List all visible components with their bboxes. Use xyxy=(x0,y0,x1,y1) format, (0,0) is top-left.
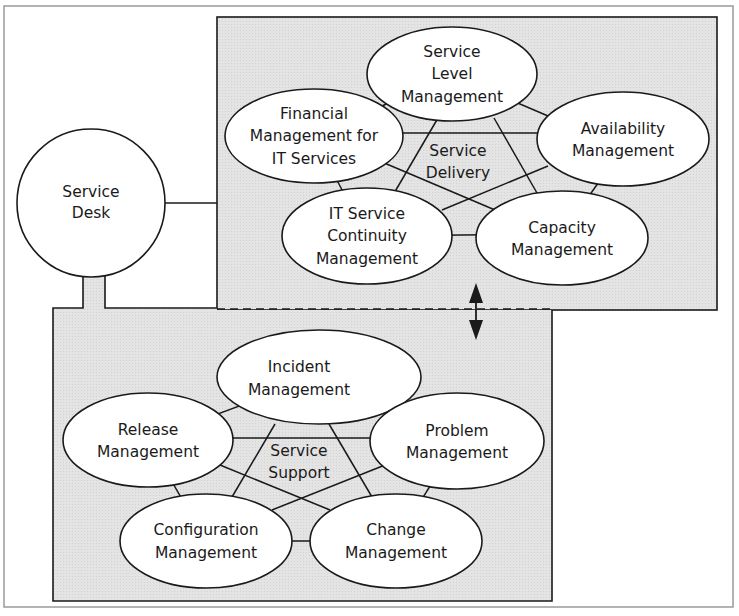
service-delivery-label-1: Service xyxy=(429,142,486,160)
node-change-management[interactable]: Change Management xyxy=(310,494,482,588)
node-label: IT Services xyxy=(272,150,356,168)
node-financial-management[interactable]: Financial Management for IT Services xyxy=(225,89,403,183)
node-label: Configuration xyxy=(153,521,258,539)
node-label: IT Service xyxy=(329,205,405,223)
node-label: Management xyxy=(401,88,503,106)
node-label: Capacity xyxy=(528,219,596,237)
node-label: Release xyxy=(118,421,179,439)
node-label: Level xyxy=(432,65,473,83)
node-capacity-management[interactable]: Capacity Management xyxy=(476,191,648,285)
node-configuration-management[interactable]: Configuration Management xyxy=(120,494,292,588)
service-support-label-2: Support xyxy=(268,464,329,482)
node-availability-management[interactable]: Availability Management xyxy=(537,92,709,186)
service-desk-label-1: Service xyxy=(62,183,119,201)
node-label: Management xyxy=(97,443,199,461)
node-label: Management xyxy=(155,544,257,562)
node-label: Financial xyxy=(280,105,348,123)
service-desk-node[interactable]: Service Desk xyxy=(17,129,165,277)
node-label: Management xyxy=(345,544,447,562)
diagram-canvas: Service Desk Service Delivery Service Su… xyxy=(0,0,739,616)
node-it-service-continuity-management[interactable]: IT Service Continuity Management xyxy=(282,188,452,284)
node-label: Continuity xyxy=(327,227,407,245)
node-release-management[interactable]: Release Management xyxy=(63,393,233,487)
node-label: Incident xyxy=(268,358,331,376)
node-label: Management xyxy=(511,241,613,259)
service-desk-label-2: Desk xyxy=(72,204,111,222)
node-label: Problem xyxy=(425,422,488,440)
node-label: Management xyxy=(316,250,418,268)
node-service-level-management[interactable]: Service Level Management xyxy=(367,27,537,121)
service-delivery-label-2: Delivery xyxy=(426,164,490,182)
node-label: Management xyxy=(248,381,350,399)
node-label: Availability xyxy=(581,120,666,138)
node-label: Service xyxy=(423,43,480,61)
node-label: Management for xyxy=(250,127,379,145)
service-support-label-1: Service xyxy=(270,442,327,460)
node-label: Management xyxy=(572,142,674,160)
node-label: Management xyxy=(406,444,508,462)
node-label: Change xyxy=(366,521,425,539)
node-problem-management[interactable]: Problem Management xyxy=(370,393,544,489)
